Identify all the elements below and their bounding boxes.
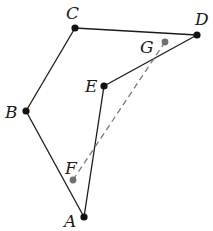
label-b: B	[4, 102, 18, 122]
label-g: G	[140, 37, 154, 57]
point-a	[80, 213, 87, 220]
segment-cd	[75, 28, 197, 35]
label-f: F	[64, 158, 78, 178]
segment-bc	[26, 28, 75, 111]
label-a: A	[62, 211, 76, 231]
labels-group: ABCDEFG	[4, 3, 209, 231]
segment-ea	[84, 86, 104, 217]
point-b	[22, 107, 29, 114]
segment-fg	[73, 42, 165, 180]
label-d: D	[194, 9, 209, 29]
geometry-diagram: ABCDEFG	[0, 0, 213, 231]
point-e	[100, 82, 107, 89]
segments-group	[26, 28, 197, 217]
label-e: E	[84, 76, 98, 96]
point-c	[71, 24, 78, 31]
point-d	[193, 31, 200, 38]
points-group	[22, 24, 200, 220]
label-c: C	[66, 3, 79, 23]
point-g	[162, 39, 169, 46]
